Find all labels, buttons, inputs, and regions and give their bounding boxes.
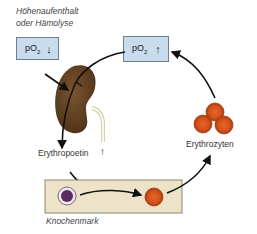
ureter-icon [92, 108, 103, 142]
erythrocytes-cluster-icon [194, 103, 233, 134]
knochenmark-label: Knochenmark [46, 216, 98, 226]
kidney-icon [55, 65, 95, 133]
erythropoetin-label: Erythropoetin [38, 148, 89, 158]
arrow-erythrocytes-to-po2 [172, 52, 215, 98]
erythrocyte-in-marrow-icon [145, 188, 163, 206]
diagram-graphics [0, 0, 257, 234]
epo-increase-arrow-icon: ↑ [100, 146, 105, 157]
erythrozyten-label: Erythrozyten [186, 139, 234, 149]
precursor-cell-icon [58, 187, 76, 205]
